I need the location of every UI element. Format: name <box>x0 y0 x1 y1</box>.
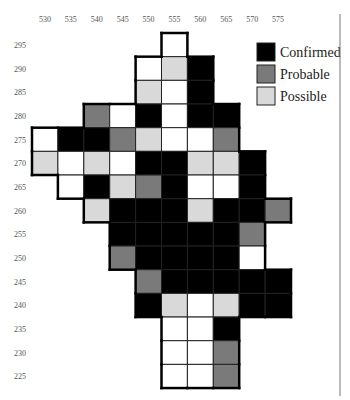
grid-cell-confirmed <box>110 199 136 223</box>
grid-cell-confirmed <box>187 104 213 128</box>
grid-cell-confirmed <box>239 175 265 199</box>
grid-cell-possible <box>187 199 213 223</box>
grid-cell-possible <box>110 175 136 199</box>
legend-swatch-confirmed <box>257 43 275 61</box>
grid-cell-empty <box>162 80 188 104</box>
grid-cell-confirmed <box>84 175 110 199</box>
x-tick-label: 540 <box>91 15 103 24</box>
grid-cell-possible <box>213 151 239 175</box>
grid-cell-confirmed <box>213 104 239 128</box>
legend: ConfirmedProbablePossible <box>257 43 341 105</box>
grid-cell-confirmed <box>162 222 188 246</box>
y-tick-label: 280 <box>14 112 26 121</box>
grid-cell-empty <box>187 364 213 388</box>
grid-cell-confirmed <box>136 222 162 246</box>
y-tick-label: 265 <box>14 183 26 192</box>
grid-cell-confirmed <box>162 270 188 294</box>
grid-cell-empty <box>162 341 188 365</box>
y-axis-labels: 2952902852802752702652602552502452402352… <box>14 41 26 381</box>
grid-cell-empty <box>162 33 188 57</box>
y-tick-label: 285 <box>14 88 26 97</box>
grid-cell-possible <box>84 199 110 223</box>
grid-cell-confirmed <box>162 151 188 175</box>
y-tick-label: 245 <box>14 278 26 287</box>
grid-cell-empty <box>58 151 84 175</box>
legend-label-possible: Possible <box>280 89 327 104</box>
x-tick-label: 535 <box>65 15 77 24</box>
grid-cell-confirmed <box>136 293 162 317</box>
x-tick-label: 575 <box>272 15 284 24</box>
grid-cell-empty <box>32 128 58 152</box>
x-tick-label: 565 <box>220 15 232 24</box>
grid-cell-probable <box>213 128 239 152</box>
grid-cell-confirmed <box>110 222 136 246</box>
grid-cell-confirmed <box>136 104 162 128</box>
grid-cell-confirmed <box>136 151 162 175</box>
x-tick-label: 530 <box>39 15 51 24</box>
grid-cell-confirmed <box>162 175 188 199</box>
x-tick-label: 570 <box>246 15 258 24</box>
grid-cell-empty <box>162 128 188 152</box>
grid-cell-confirmed <box>213 246 239 270</box>
grid-cell-confirmed <box>265 270 291 294</box>
x-tick-label: 560 <box>194 15 206 24</box>
y-tick-label: 260 <box>14 207 26 216</box>
grid-cell-probable <box>213 341 239 365</box>
grid-cell-empty <box>187 341 213 365</box>
grid-cell-empty <box>187 128 213 152</box>
legend-label-confirmed: Confirmed <box>280 45 341 60</box>
grid-cell-empty <box>110 104 136 128</box>
grid-cell-empty <box>58 175 84 199</box>
grid-cell-confirmed <box>213 317 239 341</box>
grid-cell-possible <box>213 293 239 317</box>
grid-cell-probable <box>265 199 291 223</box>
legend-swatch-possible <box>257 87 275 105</box>
grid-cell-empty <box>136 57 162 81</box>
grid-cell-possible <box>162 57 188 81</box>
y-tick-label: 225 <box>14 372 26 381</box>
grid-cell-confirmed <box>136 199 162 223</box>
legend-label-probable: Probable <box>280 67 330 82</box>
grid-cell-empty <box>187 317 213 341</box>
x-tick-label: 550 <box>143 15 155 24</box>
grid-cell-possible <box>84 151 110 175</box>
y-tick-label: 255 <box>14 230 26 239</box>
y-tick-label: 240 <box>14 301 26 310</box>
grid-cell-confirmed <box>58 128 84 152</box>
grid-cell-confirmed <box>187 80 213 104</box>
grid-cell-empty <box>239 246 265 270</box>
grid-cell-possible <box>32 151 58 175</box>
grid-cell-confirmed <box>239 270 265 294</box>
grid-cell-confirmed <box>84 128 110 152</box>
grid-cell-empty <box>162 364 188 388</box>
grid-cell-confirmed <box>162 246 188 270</box>
grid-cell-empty <box>187 175 213 199</box>
grid-cell-confirmed <box>213 199 239 223</box>
grid-cell-probable <box>213 364 239 388</box>
grid-cell-confirmed <box>213 270 239 294</box>
y-tick-label: 275 <box>14 136 26 145</box>
y-tick-label: 250 <box>14 254 26 263</box>
grid-cell-confirmed <box>162 199 188 223</box>
x-tick-label: 545 <box>117 15 129 24</box>
y-tick-label: 295 <box>14 41 26 50</box>
grid-cell-confirmed <box>187 57 213 81</box>
grid-cell-probable <box>110 128 136 152</box>
grid-cell-possible <box>187 151 213 175</box>
grid-map: 530535540545550555560565570575 295290285… <box>0 0 350 400</box>
grid-cell-probable <box>136 270 162 294</box>
grid-cell-probable <box>84 104 110 128</box>
y-tick-label: 235 <box>14 325 26 334</box>
grid-cell-confirmed <box>187 222 213 246</box>
grid-cell-confirmed <box>265 293 291 317</box>
grid-cell-probable <box>110 246 136 270</box>
grid-cell-confirmed <box>136 246 162 270</box>
grid-cell-empty <box>162 317 188 341</box>
y-tick-label: 270 <box>14 159 26 168</box>
grid-cell-empty <box>213 175 239 199</box>
grid-cell-empty <box>162 104 188 128</box>
grid-cell-confirmed <box>213 222 239 246</box>
grid-cell-confirmed <box>187 270 213 294</box>
grid-cell-confirmed <box>239 199 265 223</box>
grid-cell-empty <box>110 151 136 175</box>
